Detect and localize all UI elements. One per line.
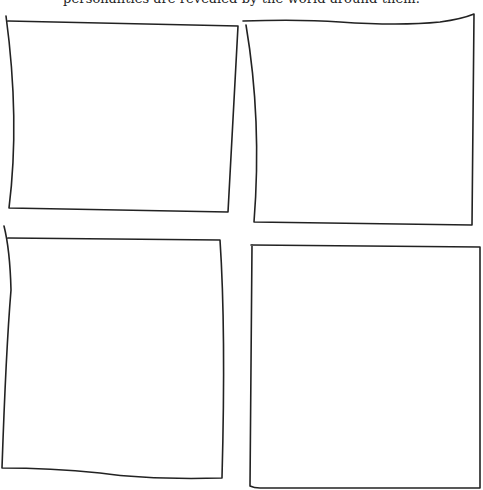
panel-bottom-right[interactable] — [250, 245, 480, 488]
panel-top-left[interactable] — [6, 16, 238, 212]
panel-top-right[interactable] — [243, 14, 474, 225]
comic-panel-grid — [0, 0, 483, 490]
panel-bottom-left[interactable] — [2, 226, 224, 478]
